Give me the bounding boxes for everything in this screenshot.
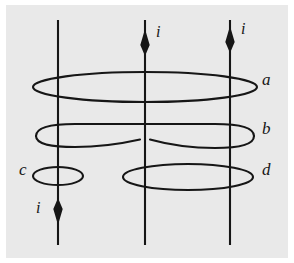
loop-d-path: [123, 164, 253, 190]
figure-drawing: [0, 0, 294, 263]
middle-wire-current-label: i: [156, 24, 160, 40]
wire-group: [58, 20, 230, 245]
right-wire-current-arrow-up-icon: [225, 26, 234, 53]
loop-c-label: c: [19, 161, 27, 178]
loop-b-label: b: [262, 120, 271, 137]
loop-a-label: a: [262, 71, 271, 88]
figure-container: i i i a b c d: [0, 0, 294, 263]
right-wire-current-label: i: [241, 21, 245, 37]
left-wire-current-label: i: [36, 200, 40, 216]
left-wire-current-arrow-down-icon: [53, 198, 62, 225]
middle-wire-current-arrow-up-icon: [140, 29, 149, 56]
loop-d-label: d: [262, 161, 271, 178]
